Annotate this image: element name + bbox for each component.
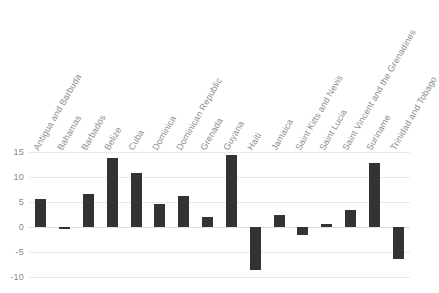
x-axis-label: Cuba bbox=[126, 128, 146, 152]
x-axis-label: Trinidad and Tobago bbox=[388, 75, 438, 152]
bar bbox=[107, 158, 118, 227]
bar bbox=[35, 199, 46, 227]
y-axis-tick-label: 10 bbox=[14, 172, 24, 182]
bar bbox=[202, 217, 213, 228]
plot-area: 151050-5-10 bbox=[29, 152, 410, 277]
bar bbox=[154, 204, 165, 228]
bar bbox=[321, 224, 332, 228]
x-axis-label: Guyana bbox=[222, 119, 247, 152]
bar bbox=[178, 196, 189, 227]
bar bbox=[345, 210, 356, 228]
bar bbox=[250, 227, 261, 270]
y-axis-tick-label: -10 bbox=[10, 272, 24, 282]
bar-series bbox=[29, 152, 410, 277]
x-axis-label: Haiti bbox=[246, 131, 264, 152]
bar bbox=[131, 173, 142, 227]
x-axis-category-labels: Antigua and BarbudaBahamasBarbadosBelize… bbox=[29, 0, 410, 152]
y-axis-tick-label: -5 bbox=[16, 247, 24, 257]
bar bbox=[59, 227, 70, 229]
bar bbox=[274, 215, 285, 228]
bar bbox=[297, 227, 308, 235]
gridline: -10 bbox=[29, 277, 410, 278]
x-axis-label: Belize bbox=[103, 125, 124, 152]
x-axis-label: Dominican Republic bbox=[174, 76, 224, 152]
y-axis-tick-label: 15 bbox=[14, 147, 24, 157]
bar bbox=[369, 163, 380, 227]
x-axis-label: Jamaica bbox=[269, 117, 295, 152]
bar bbox=[83, 194, 94, 227]
y-axis-tick-label: 5 bbox=[19, 197, 24, 207]
x-axis-label: Antigua and Barbuda bbox=[31, 72, 83, 152]
bar bbox=[226, 155, 237, 228]
bar bbox=[393, 227, 404, 259]
y-axis-tick-label: 0 bbox=[19, 222, 24, 232]
